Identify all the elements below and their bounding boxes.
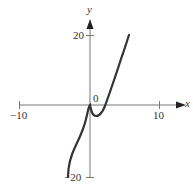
x-tick-label-min: −10	[10, 110, 27, 121]
function-curve	[68, 35, 129, 177]
x-tick-label-max: 10	[153, 110, 164, 121]
y-axis-arrow-icon	[87, 19, 94, 29]
y-tick-label-max: 20	[73, 30, 84, 41]
origin-label: 0	[93, 93, 99, 104]
y-tick-label-min: −20	[64, 172, 81, 183]
y-axis-label: y	[87, 4, 92, 15]
x-axis-label: x	[185, 98, 190, 109]
